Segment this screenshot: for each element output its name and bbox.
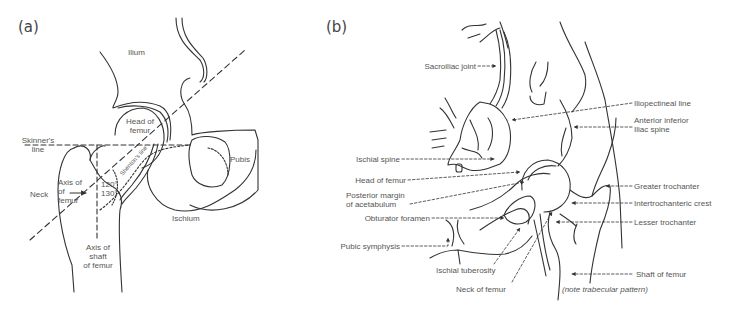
label-skinners-line: Skinner's line: [20, 136, 56, 154]
panel-a-tag: (a): [18, 18, 39, 36]
obturator-foramen-outline: [504, 196, 535, 224]
label-pubis: Pubis: [230, 155, 250, 164]
sacrum-outline: [448, 102, 511, 171]
label-obturator-foramen: Obturator foramen: [340, 214, 430, 223]
femoral-head-outline: [522, 160, 570, 212]
label-angles: 120° 130°: [101, 180, 118, 198]
label-posterior-margin-of-acetabulum: Posterior margin of acetabulum: [346, 191, 405, 209]
label-ischial-tuberosity: Ischial tuberosity: [436, 266, 496, 275]
label-axis-of-femur: Axis of of femur: [58, 178, 82, 205]
label-iliopectineal-line: Iliopectineal line: [634, 99, 691, 108]
panel-b-tag: (b): [326, 18, 347, 36]
obturator-foramen-outline: [189, 136, 230, 186]
label-ilium: Ilium: [128, 48, 145, 57]
label-intertrochanteric-crest: Intertrochanteric crest: [634, 199, 711, 208]
label-lesser-trochanter: Lesser trochanter: [634, 218, 696, 227]
label-neck-of-femur: Neck of femur: [456, 285, 506, 294]
label-axis-of-shaft: Axis of shaft of femur: [78, 243, 118, 270]
label-head-of-femur: Head of femur: [122, 117, 158, 135]
femur-lateral-outline: [58, 148, 74, 292]
label-ischium: Ischium: [172, 214, 200, 223]
femur-lateral-outline: [570, 185, 610, 283]
label-pubic-symphysis: Pubic symphysis: [330, 242, 400, 251]
label-sacroiliac-joint: Sacroiliac joint: [390, 62, 476, 71]
label-greater-trochanter: Greater trochanter: [634, 182, 699, 191]
femur-medial-outline: [74, 146, 122, 292]
label-head-of-femur-b: Head of femur: [330, 176, 406, 185]
label-anterior-inferior-iliac-spine: Anterior inferior Iliac spine: [634, 116, 689, 134]
label-neck: Neck: [30, 190, 48, 199]
label-trabecular-note: (note trabecular pattern): [562, 285, 648, 294]
label-ischial-spine: Ischial spine: [340, 155, 400, 164]
label-shaft-of-femur: Shaft of femur: [636, 270, 686, 279]
femur-medial-outline: [548, 212, 560, 300]
